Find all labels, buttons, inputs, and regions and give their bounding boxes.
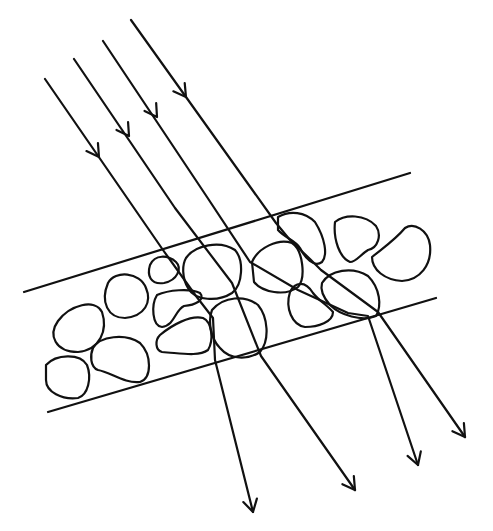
top-edge-line xyxy=(24,173,410,292)
particle-3 xyxy=(149,257,179,284)
particle-7 xyxy=(156,317,211,354)
particle-2 xyxy=(105,274,148,318)
particle-14 xyxy=(288,284,333,327)
particle-13 xyxy=(372,226,430,281)
particle-6 xyxy=(91,337,149,382)
particle-5 xyxy=(46,356,89,398)
ray-4-path xyxy=(131,20,465,437)
particle-12 xyxy=(335,216,379,262)
arrow-out-icon xyxy=(342,476,355,490)
ray-4 xyxy=(131,20,465,437)
particle-layer xyxy=(46,213,430,398)
arrow-out-icon xyxy=(452,423,465,437)
bottom-edge-line xyxy=(48,298,436,412)
scattering-diagram xyxy=(0,0,493,531)
ray-2 xyxy=(74,59,355,490)
medium-slab xyxy=(24,173,436,412)
ray-2-path xyxy=(74,59,355,490)
